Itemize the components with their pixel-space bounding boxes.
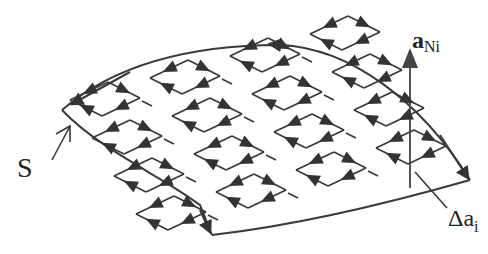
area-element-pointer bbox=[415, 172, 447, 208]
surface-label: S bbox=[17, 154, 33, 182]
normal-vector-label: aNi bbox=[412, 28, 440, 55]
area-element-label: Δai bbox=[448, 206, 479, 235]
surface-pointer-arrow bbox=[52, 126, 70, 160]
surface-boundary bbox=[62, 44, 470, 235]
circulation-loop-grid bbox=[70, 15, 446, 230]
